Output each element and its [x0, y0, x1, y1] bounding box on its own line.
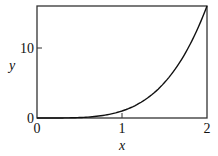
- data-curve: [37, 6, 207, 118]
- x-tick-label-0: 0: [34, 121, 41, 136]
- y-axis-label: y: [7, 58, 16, 73]
- y-tick-label-10: 10: [20, 41, 34, 56]
- chart: 0 10 y 0 1 2 x: [0, 0, 218, 156]
- plot-frame: [37, 6, 207, 118]
- x-tick-label-2: 2: [204, 121, 211, 136]
- x-tick-label-1: 1: [119, 121, 126, 136]
- x-axis-label: x: [118, 138, 126, 153]
